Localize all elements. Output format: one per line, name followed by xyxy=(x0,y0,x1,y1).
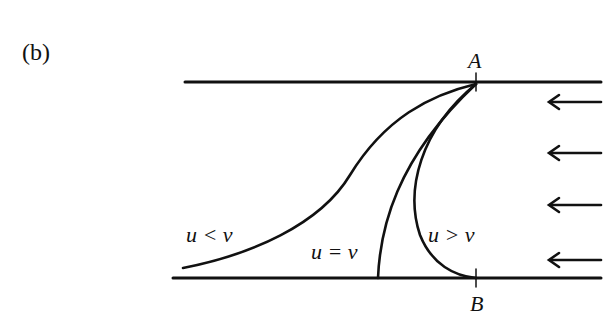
label-u-equal-v: u = v xyxy=(311,239,358,264)
label-u-greater-v: u > v xyxy=(428,222,475,247)
channel-diagram: (b) A B u < v u = v u > v xyxy=(0,0,616,328)
arrow-left-icon xyxy=(549,253,601,267)
arrow-left-icon xyxy=(549,198,601,212)
curve-u-greater-v xyxy=(415,84,476,278)
label-u-less-v: u < v xyxy=(186,222,233,247)
arrow-left-icon xyxy=(549,95,601,109)
point-label-b: B xyxy=(470,291,483,316)
arrow-left-icon xyxy=(549,146,601,160)
flow-arrows xyxy=(549,95,601,267)
point-label-a: A xyxy=(466,48,482,73)
panel-label: (b) xyxy=(22,39,50,65)
